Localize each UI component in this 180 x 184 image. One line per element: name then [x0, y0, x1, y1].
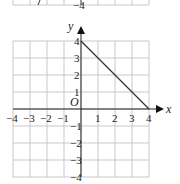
- origin-label: O: [70, 95, 79, 109]
- y-tick-label: −3: [70, 154, 82, 166]
- graph-figure: −4 −4−3−2−112344321−1−2−3−4 x y O: [0, 0, 180, 184]
- x-tick-label: −3: [23, 112, 35, 124]
- x-tick-label: −4: [6, 112, 18, 124]
- x-tick-label: 4: [146, 112, 152, 124]
- y-axis-label: y: [67, 19, 74, 33]
- y-tick-label: −2: [70, 137, 82, 149]
- x-tick-label: 1: [95, 112, 101, 124]
- y-tick-label: −4: [70, 171, 82, 183]
- y-tick-label: −1: [70, 120, 82, 132]
- x-tick-label: 2: [112, 112, 118, 124]
- y-axis-arrow-icon: [77, 26, 85, 34]
- y-tick-label: 4: [74, 35, 80, 47]
- y-tick-label: 3: [74, 52, 80, 64]
- x-tick-label: 3: [129, 112, 135, 124]
- y-tick-label: 2: [74, 69, 80, 81]
- x-axis-label: x: [165, 102, 172, 116]
- x-tick-label: −2: [40, 112, 52, 124]
- x-tick-label: −1: [57, 112, 69, 124]
- x-axis-arrow-icon: [156, 105, 164, 113]
- fragment-tick-label: −4: [73, 0, 85, 11]
